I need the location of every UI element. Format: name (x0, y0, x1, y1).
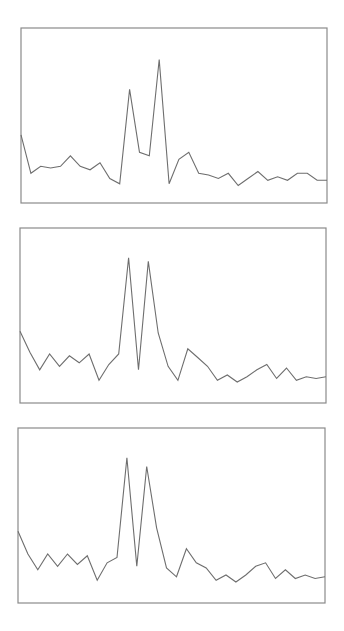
figure (0, 0, 344, 631)
plot-frame (21, 28, 327, 203)
series-line-panel-2 (20, 258, 326, 382)
series-line-panel-3 (18, 458, 325, 582)
chart-panel-2 (20, 228, 326, 403)
series-line-panel-1 (21, 60, 327, 186)
chart-panel-1 (21, 28, 327, 203)
plot-frame (18, 428, 325, 603)
chart-panel-3 (18, 428, 325, 603)
plot-frame (20, 228, 326, 403)
